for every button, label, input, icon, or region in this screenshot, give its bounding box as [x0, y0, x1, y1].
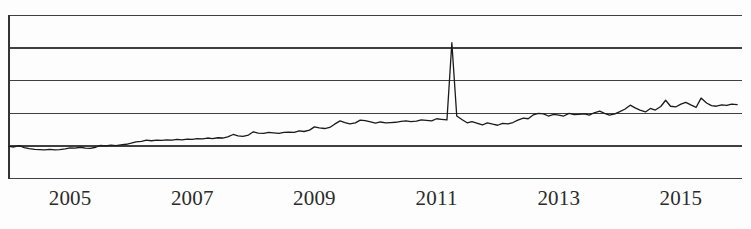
- x-axis-tick-label: 2007: [171, 186, 214, 211]
- line-chart-plot: [0, 0, 751, 229]
- x-axis-tick-label: 2011: [416, 186, 458, 211]
- data-line-group: [9, 43, 737, 150]
- data-series-line: [9, 43, 737, 150]
- gridlines-group: [8, 16, 742, 179]
- x-axis-tick-label: 2013: [537, 186, 580, 211]
- x-axis-tick-label: 2015: [659, 186, 702, 211]
- chart-figure: 200520072009201120132015: [0, 0, 751, 229]
- x-axis-tick-label: 2005: [49, 186, 92, 211]
- x-axis-tick-label: 2009: [293, 186, 336, 211]
